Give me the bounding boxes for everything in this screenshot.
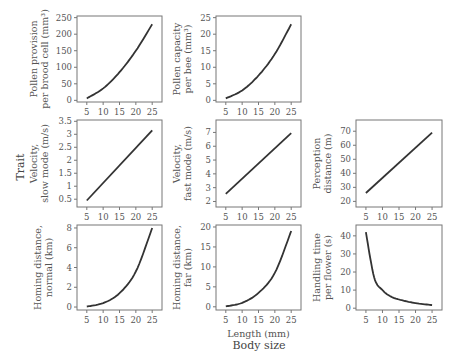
- data-curve: [226, 231, 291, 306]
- data-curve: [366, 232, 432, 305]
- y-tick-label: 30: [340, 249, 351, 259]
- y-tick-label: 30: [340, 182, 351, 192]
- x-tick-label: 25: [286, 107, 297, 117]
- x-tick-label: 25: [427, 315, 438, 325]
- x-tick-label: 15: [394, 315, 405, 325]
- data-curve: [87, 24, 152, 98]
- x-tick-label: 5: [223, 315, 228, 325]
- y-tick-label: 50: [340, 154, 351, 164]
- x-tick-label: 10: [98, 212, 109, 222]
- y-tick-label: 3: [67, 129, 72, 139]
- y-axis-label: Pollen provisionper brood cell (mm³): [28, 9, 50, 109]
- x-tick-label: 25: [147, 107, 158, 117]
- x-tick-label: 20: [130, 212, 141, 222]
- y-tick-label: 2: [206, 196, 211, 206]
- x-tick-label: 25: [427, 212, 438, 222]
- y-tick-label: 2: [67, 282, 72, 292]
- x-tick-label: 15: [114, 212, 125, 222]
- y-tick-label: 6: [67, 243, 72, 253]
- y-tick-label: 10: [200, 62, 211, 72]
- y-tick-label: 2.5: [58, 142, 72, 152]
- x-tick-label: 5: [363, 315, 368, 325]
- panel-row2-col1: 5101520250.511.522.533.5Velocity,slow mo…: [28, 116, 162, 222]
- x-tick-label: 25: [147, 212, 158, 222]
- panel-grid: 510152025050100150200250Pollen provision…: [28, 9, 442, 339]
- panel-row1-col1: 510152025050100150200250Pollen provision…: [28, 9, 162, 117]
- plot-frame: [356, 225, 442, 310]
- x-tick-label: 15: [394, 212, 405, 222]
- y-tick-label: 20: [340, 267, 351, 277]
- panel-row3-col2: 51015202505101520Homing distance,far (km…: [171, 222, 301, 339]
- x-tick-label: 10: [237, 315, 248, 325]
- y-tick-label: 3: [206, 183, 211, 193]
- y-tick-label: 10: [340, 285, 351, 295]
- y-axis-label: Homing distance,far (km): [171, 225, 193, 310]
- x-tick-label: 5: [84, 315, 89, 325]
- y-tick-label: 70: [340, 126, 351, 136]
- y-axis-label: Handling timeper flower (s): [311, 233, 333, 302]
- y-tick-label: 20: [340, 196, 351, 206]
- y-tick-label: 15: [200, 46, 211, 56]
- x-tick-label: 25: [286, 212, 297, 222]
- x-tick-label: 10: [98, 315, 109, 325]
- x-tick-label: 20: [130, 315, 141, 325]
- x-tick-label: 10: [377, 212, 388, 222]
- x-tick-label: 15: [253, 107, 264, 117]
- y-tick-label: 60: [340, 140, 351, 150]
- x-tick-label: 20: [410, 315, 421, 325]
- y-tick-label: 250: [56, 13, 72, 23]
- x-tick-label: 10: [237, 212, 248, 222]
- y-tick-label: 0: [67, 95, 72, 105]
- y-tick-label: 4: [206, 169, 211, 179]
- data-curve: [226, 24, 291, 98]
- y-tick-label: 20: [200, 222, 211, 232]
- y-axis-label: Velocity,fast mode (m/s): [171, 126, 193, 201]
- x-tick-label: 15: [253, 315, 264, 325]
- x-tick-label: 5: [223, 212, 228, 222]
- y-tick-label: 100: [56, 62, 72, 72]
- x-tick-label: 20: [269, 107, 280, 117]
- y-tick-label: 5: [206, 79, 211, 89]
- x-tick-label: 20: [410, 212, 421, 222]
- x-tick-label: 25: [147, 315, 158, 325]
- x-tick-label: 15: [114, 315, 125, 325]
- panel-row1-col2: 5101520250510152025Pollen capacityper be…: [171, 13, 301, 117]
- y-tick-label: 20: [200, 29, 211, 39]
- data-curve: [87, 130, 152, 200]
- y-axis-label: Velocity,slow mode (m/s): [28, 124, 50, 203]
- panel-row3-col1: 51015202502468Homing distance,normal (km…: [32, 223, 162, 325]
- y-axis-label: Homing distance,normal (km): [32, 225, 54, 310]
- y-tick-label: 3.5: [58, 116, 72, 126]
- x-tick-label: 15: [114, 107, 125, 117]
- y-super-label: Trait: [14, 153, 27, 181]
- data-curve: [366, 133, 432, 193]
- x-tick-label: 15: [253, 212, 264, 222]
- y-tick-label: 0: [206, 95, 211, 105]
- y-tick-label: 5: [206, 155, 211, 165]
- x-axis-label: Length (mm): [227, 328, 290, 339]
- y-tick-label: 40: [340, 231, 351, 241]
- y-tick-label: 7: [206, 127, 211, 137]
- y-tick-label: 0: [206, 302, 211, 312]
- x-tick-label: 5: [84, 212, 89, 222]
- x-tick-label: 10: [377, 315, 388, 325]
- x-tick-label: 5: [223, 107, 228, 117]
- y-tick-label: 2: [67, 155, 72, 165]
- x-tick-label: 20: [269, 212, 280, 222]
- y-tick-label: 150: [56, 46, 72, 56]
- panel-row3-col3: 510152025010203040Handling timeper flowe…: [311, 225, 442, 325]
- y-tick-label: 200: [56, 29, 72, 39]
- y-tick-label: 50: [61, 79, 72, 89]
- trait-vs-body-size-figure: Trait Body size 510152025050100150200250…: [0, 0, 457, 364]
- x-tick-label: 10: [98, 107, 109, 117]
- y-tick-label: 0: [346, 303, 351, 313]
- panel-row2-col3: 510152025203040506070Perceptiondistance …: [311, 120, 442, 222]
- y-tick-label: 4: [67, 263, 72, 273]
- y-tick-label: 6: [206, 141, 211, 151]
- data-curve: [87, 228, 152, 307]
- x-tick-label: 5: [84, 107, 89, 117]
- y-tick-label: 0.5: [58, 194, 72, 204]
- y-tick-label: 25: [200, 13, 211, 23]
- x-tick-label: 5: [363, 212, 368, 222]
- panel-row2-col2: 510152025234567Velocity,fast mode (m/s): [171, 120, 301, 222]
